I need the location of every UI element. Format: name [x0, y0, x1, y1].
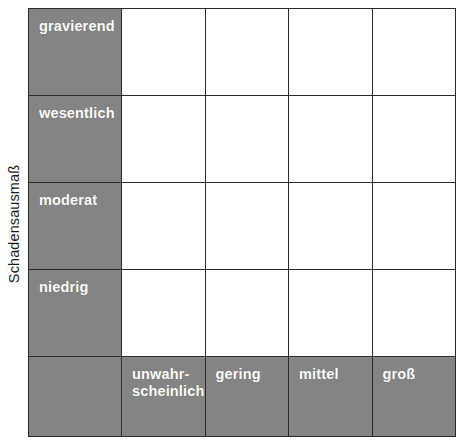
cell-niedrig-mittel[interactable] [289, 270, 373, 357]
cell-gravierend-unwahrscheinlich[interactable] [122, 9, 206, 96]
cell-moderat-gering[interactable] [205, 183, 289, 270]
column-label-text: gering [206, 357, 289, 383]
row-label-wesentlich: wesentlich [29, 96, 122, 183]
row-label-niedrig: niedrig [29, 270, 122, 357]
row-label-gravierend: gravierend [29, 9, 122, 96]
column-label-line1: unwahr- [132, 366, 189, 382]
cell-moderat-unwahrscheinlich[interactable] [122, 183, 206, 270]
cell-wesentlich-unwahrscheinlich[interactable] [122, 96, 206, 183]
matrix-corner-cell [29, 357, 122, 437]
cell-moderat-mittel[interactable] [289, 183, 373, 270]
column-label-text: mittel [289, 357, 372, 383]
row-label-text: niedrig [29, 270, 121, 296]
cell-niedrig-unwahrscheinlich[interactable] [122, 270, 206, 357]
y-axis-label-text: Schadensausmaß [6, 164, 22, 282]
column-label-text: unwahr-scheinlich [122, 357, 205, 400]
column-label-gering: gering [205, 357, 289, 437]
row-label-text: moderat [29, 183, 121, 209]
column-label-line2: scheinlich [132, 383, 205, 400]
row-label-text: gravierend [29, 9, 121, 35]
risk-matrix-table: gravierend wesentlich modera [28, 8, 456, 437]
row-label-text: wesentlich [29, 96, 121, 122]
cell-gravierend-mittel[interactable] [289, 9, 373, 96]
table-row: gravierend [29, 9, 456, 96]
cell-gravierend-gering[interactable] [205, 9, 289, 96]
column-label-gross: groß [372, 357, 456, 437]
risk-matrix-diagram: Schadensausmaß gravierend [0, 0, 470, 447]
cell-wesentlich-gering[interactable] [205, 96, 289, 183]
cell-wesentlich-gross[interactable] [372, 96, 456, 183]
column-label-text: groß [373, 357, 456, 383]
table-row: wesentlich [29, 96, 456, 183]
cell-niedrig-gross[interactable] [372, 270, 456, 357]
column-label-mittel: mittel [289, 357, 373, 437]
table-row: niedrig [29, 270, 456, 357]
column-header-row: unwahr-scheinlich gering mittel groß [29, 357, 456, 437]
cell-gravierend-gross[interactable] [372, 9, 456, 96]
cell-niedrig-gering[interactable] [205, 270, 289, 357]
cell-wesentlich-mittel[interactable] [289, 96, 373, 183]
cell-moderat-gross[interactable] [372, 183, 456, 270]
table-row: moderat [29, 183, 456, 270]
column-label-unwahrscheinlich: unwahr-scheinlich [122, 357, 206, 437]
row-label-moderat: moderat [29, 183, 122, 270]
y-axis-label: Schadensausmaß [0, 0, 28, 447]
